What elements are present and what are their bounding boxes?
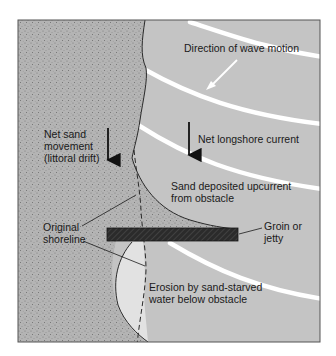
label-erosion-line1: Erosion by sand-starved — [149, 281, 262, 293]
label-sand-deposited-line1: Sand deposited upcurrent — [171, 180, 291, 192]
label-sand-movement-line2: movement — [44, 140, 99, 152]
label-sand-movement-line1: Net sand — [44, 128, 99, 140]
label-groin-line1: Groin or — [264, 220, 302, 232]
label-sand-movement-line3: (littoral drift) — [44, 152, 99, 164]
label-erosion-line2: water below obstacle — [149, 293, 262, 305]
label-original-shoreline-line1: Original — [43, 221, 86, 233]
label-erosion: Erosion by sand-starved water below obst… — [149, 281, 262, 305]
label-groin: Groin or jetty — [264, 220, 302, 244]
label-sand-movement: Net sand movement (littoral drift) — [44, 128, 99, 164]
groin-jetty — [107, 228, 238, 241]
label-sand-deposited: Sand deposited upcurrent from obstacle — [171, 180, 291, 204]
label-groin-line2: jetty — [264, 232, 302, 244]
label-original-shoreline: Original shoreline — [43, 221, 86, 245]
label-sand-deposited-line2: from obstacle — [171, 192, 291, 204]
label-original-shoreline-line2: shoreline — [43, 233, 86, 245]
label-longshore-current: Net longshore current — [198, 133, 299, 145]
label-wave-direction: Direction of wave motion — [184, 42, 299, 54]
